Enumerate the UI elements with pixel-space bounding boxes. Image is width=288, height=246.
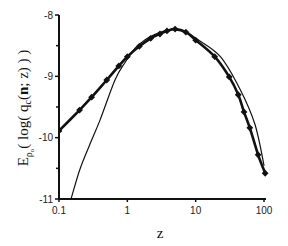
series-line [59,29,265,173]
x-axis-title: z [157,225,164,241]
diamond-marker [246,124,253,131]
y-tick-label: -10 [39,132,54,143]
x-tick-label: 1 [125,205,131,216]
chart: -8-9-10-110.1110100 z Eρo( log( qc(n; z)… [0,0,288,246]
svg-text:Eρo( log( qc(n; z) ) ): Eρo( log( qc(n; z) ) ) [15,50,36,167]
series-line [71,29,264,199]
series-thick-diamond [56,26,269,177]
axes: -8-9-10-110.1110100 [39,10,273,217]
series-layer [56,26,269,199]
diamond-marker [241,109,248,116]
y-tick-label: -9 [44,71,53,82]
diamond-marker [262,170,269,177]
x-tick-label: 0.1 [52,205,66,216]
y-axis-title: Eρo( log( qc(n; z) ) ) [15,50,36,167]
y-tick-label: -8 [44,10,53,21]
y-tick-label: -11 [39,194,53,205]
series-thin [71,29,264,199]
diamond-marker [255,151,262,158]
x-tick-label: 10 [190,205,202,216]
x-tick-label: 100 [256,205,273,216]
